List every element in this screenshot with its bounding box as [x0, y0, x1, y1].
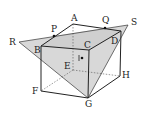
label-s: S [131, 17, 137, 27]
label-r: R [9, 37, 16, 47]
label-e: E [64, 61, 71, 71]
label-b: B [34, 45, 41, 55]
point-p [53, 35, 56, 38]
point-i [81, 57, 84, 60]
label-g: G [85, 99, 92, 109]
label-h: H [122, 70, 130, 80]
label-c: C [84, 40, 91, 50]
point-q [104, 27, 107, 30]
label-f: F [32, 86, 38, 96]
label-d: D [111, 36, 118, 46]
label-p: P [51, 24, 57, 34]
cube-diagram: A B C D E F G H P Q R S [0, 0, 142, 122]
label-a: A [70, 13, 78, 23]
label-q: Q [102, 15, 109, 25]
